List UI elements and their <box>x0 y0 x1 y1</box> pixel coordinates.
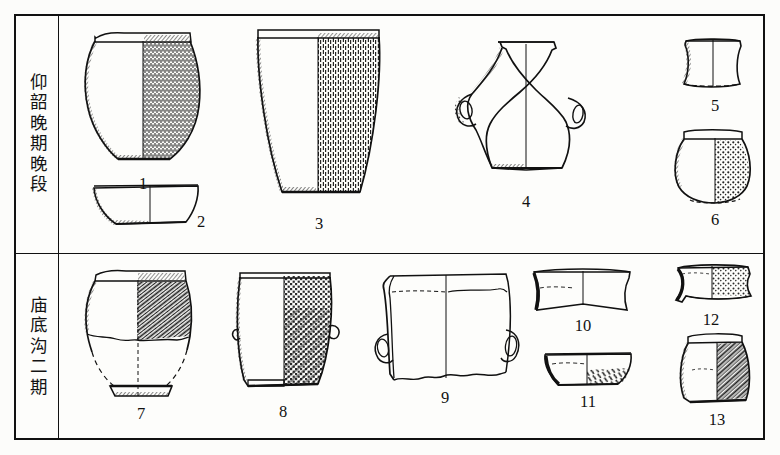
vessel-1-cord-marked-jar: 1 <box>78 28 208 176</box>
vessel-9-twin-handled-vessel-body: 9 <box>372 268 522 394</box>
vessel-13-small-cord-marked-jar: 13 <box>676 330 760 412</box>
vessel-3-deep-bucket-vessel: 3 <box>252 26 386 216</box>
vessel-5-rim-sherd: 5 <box>678 36 750 98</box>
period-label-upper: 仰韶晚期晚段 <box>16 16 57 252</box>
period-column-divider <box>58 14 59 440</box>
pottery-typology-figure: 仰韶晚期晚段 庙底沟二期 <box>0 0 780 455</box>
vessel-6-small-globular-jar: 6 <box>672 126 758 212</box>
vessel-number-10: 10 <box>568 318 598 335</box>
vessel-12-textured-rim-sherd: 12 <box>672 262 756 312</box>
vessel-number-3: 3 <box>304 216 334 233</box>
vessel-number-11: 11 <box>573 394 603 411</box>
vessel-number-5: 5 <box>700 98 730 115</box>
vessel-2-shallow-basin: 2 <box>90 182 202 232</box>
vessel-number-6: 6 <box>700 212 730 229</box>
vessel-8-lugged-bucket-vessel: 8 <box>230 268 350 404</box>
period-row-divider <box>14 253 765 254</box>
vessel-11-small-bowl: 11 <box>540 350 636 394</box>
vessel-number-9: 9 <box>430 390 460 407</box>
vessel-10-flared-rim-sherd: 10 <box>528 266 636 318</box>
vessel-number-2: 2 <box>186 214 216 231</box>
vessel-number-12: 12 <box>696 312 726 329</box>
vessel-number-8: 8 <box>268 404 298 421</box>
vessel-number-4: 4 <box>511 194 541 211</box>
period-label-lower: 庙底沟二期 <box>16 255 57 439</box>
vessel-number-7: 7 <box>126 406 156 423</box>
vessel-4-double-handled-amphora: 4 <box>446 36 606 196</box>
vessel-7-basket-impressed-jar: 7 <box>82 266 210 406</box>
vessel-number-13: 13 <box>702 412 732 429</box>
